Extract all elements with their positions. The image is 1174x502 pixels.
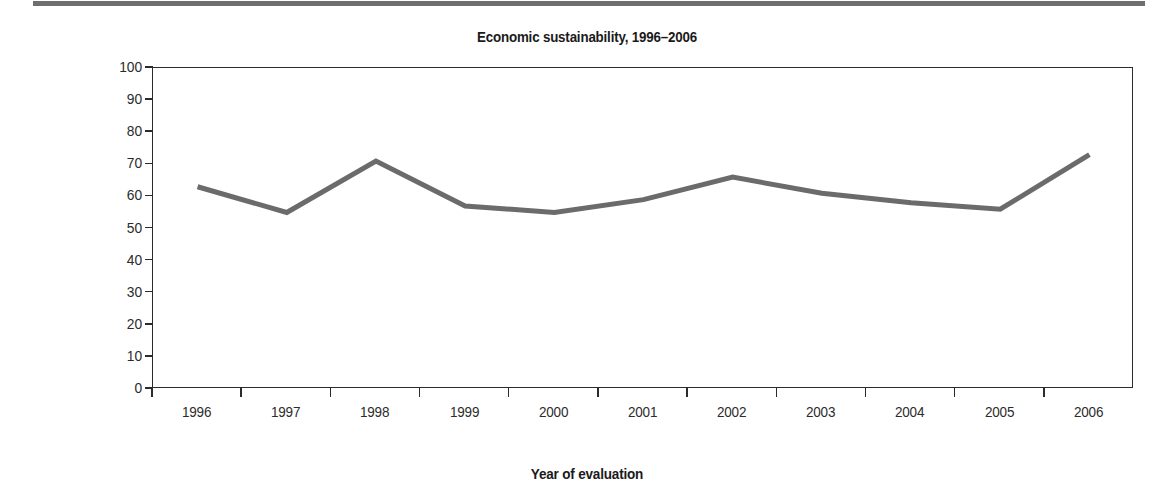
x-axis-tick-label: 1997 [246,403,326,421]
x-axis-tick-mark [508,388,510,397]
y-axis-tick-label: 50 [87,220,142,235]
x-axis-tick-label: 2005 [959,403,1039,421]
x-axis-tick-label: 2003 [781,403,861,421]
figure-container: Economic sustainability, 1996–2006 Perce… [0,0,1174,502]
x-axis-tick-mark [776,388,778,397]
x-axis-tick-mark [151,388,153,397]
y-axis-tick-label: 80 [87,123,142,138]
x-axis-tick-label: 1996 [156,403,236,421]
x-axis-title: Year of evaluation [59,465,1116,482]
chart-title: Economic sustainability, 1996–2006 [82,28,1092,46]
x-axis-tick-mark [330,388,332,397]
y-axis-tick-label: 70 [87,155,142,170]
y-axis-tick-label: 20 [87,316,142,331]
x-axis-tick-label: 1998 [335,403,415,421]
x-axis-tick-label: 2001 [602,403,682,421]
x-axis-tick-label: 2006 [1048,403,1128,421]
x-axis-tick-mark [419,388,421,397]
y-axis-tick-label: 60 [87,187,142,202]
x-axis-tick-mark [1043,388,1045,397]
header-rule [33,1,1145,6]
y-axis-tick-label: 10 [87,348,142,363]
x-axis-tick-mark [954,388,956,397]
x-axis-tick-label: 2004 [870,403,950,421]
plot-area [152,67,1133,388]
y-axis-tick-label: 90 [87,91,142,106]
y-axis-tick-label: 40 [87,252,142,267]
x-axis-tick-mark [240,388,242,397]
data-series-line [198,155,1090,213]
line-chart-svg [153,68,1134,389]
y-axis-tick-label: 0 [87,380,142,395]
x-axis-tick-label: 1999 [424,403,504,421]
x-axis-tick-label: 2002 [692,403,772,421]
x-axis-tick-mark [597,388,599,397]
x-axis-tick-label: 2000 [513,403,593,421]
x-axis-tick-mark [865,388,867,397]
y-axis-tick-label: 100 [87,59,142,74]
y-axis-tick-label: 30 [87,284,142,299]
x-axis-tick-mark [686,388,688,397]
